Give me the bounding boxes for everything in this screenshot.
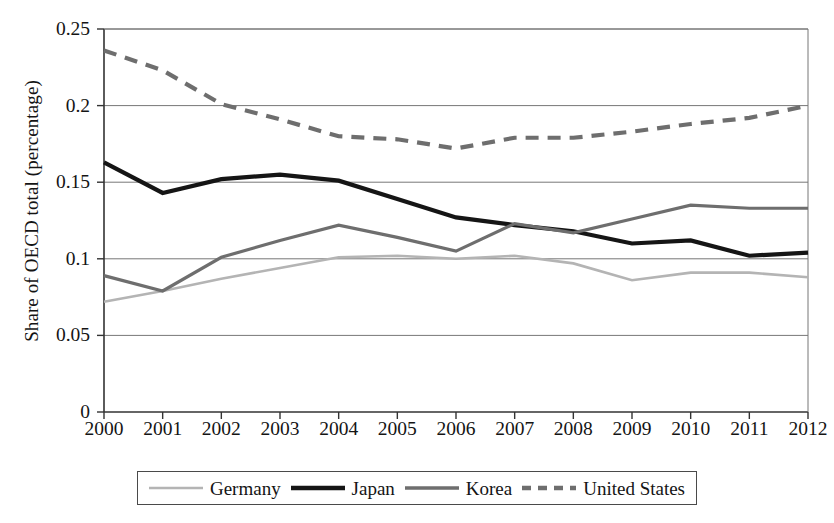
legend-label: Germany: [210, 479, 281, 498]
legend-item-korea: Korea: [405, 479, 512, 498]
legend-swatch-korea-icon: [405, 481, 459, 495]
x-tick-label: 2012: [773, 419, 834, 439]
plot-frame: [104, 29, 808, 412]
y-axis-ticks: [97, 29, 104, 412]
data-series-lines: [104, 50, 808, 301]
legend-swatch-united-states-icon: [522, 481, 576, 495]
legend-swatch-japan-icon: [291, 481, 345, 495]
chart-legend: GermanyJapanKoreaUnited States: [137, 471, 697, 505]
legend-label: Korea: [466, 479, 512, 498]
series-line-united-states: [104, 50, 808, 148]
legend-swatch-germany-icon: [149, 481, 203, 495]
legend-item-germany: Germany: [149, 479, 281, 498]
line-chart-figure: Share of OECD total (percentage) 0.250.2…: [0, 0, 834, 523]
series-line-japan: [104, 162, 808, 255]
legend-label: United States: [583, 479, 685, 498]
legend-item-united-states: United States: [522, 479, 685, 498]
legend-item-japan: Japan: [291, 479, 395, 498]
x-axis-tick-labels: 2000200120022003200420052006200720082009…: [104, 419, 808, 449]
legend-label: Japan: [352, 479, 395, 498]
